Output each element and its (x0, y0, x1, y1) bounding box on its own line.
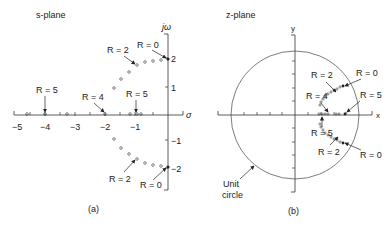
annotation-label: R = 0 (140, 180, 162, 190)
unit-circle-label: Unit (223, 179, 240, 189)
x-tick-label: −1 (130, 122, 140, 132)
annotation-label: R = 2 (107, 45, 129, 55)
root-locus-figure: s-plane σ −5 −4 −3 −2 −1 jω (0, 0, 391, 228)
annotation-label: R = 4 (306, 91, 328, 101)
unit-circle-label: circle (222, 190, 243, 200)
y-label: y (291, 24, 295, 33)
annotation-label: R = 5 (360, 90, 382, 100)
s-plane-title: s-plane (36, 10, 66, 20)
jw-label: jω (161, 22, 171, 32)
annotation-label: R = 5 (36, 85, 58, 95)
lower-locus-points (113, 138, 163, 168)
annotation-label: R = 0 (137, 40, 159, 50)
x-tick-label: −5 (12, 122, 22, 132)
annotation-label: R = 5 (311, 128, 333, 138)
annotation-label: R = 2 (109, 174, 131, 184)
x-tick-label: −2 (100, 122, 110, 132)
z-plane-caption: (b) (288, 206, 299, 216)
y-tick-label: −1 (171, 136, 181, 146)
y-tick-label: −2 (171, 164, 181, 174)
sigma-label: σ (186, 110, 192, 120)
annotation-label: R = 5 (126, 89, 148, 99)
upper-locus-points (113, 59, 163, 90)
annotation-label: R = 0 (360, 150, 382, 160)
x-tick-label: −3 (70, 122, 80, 132)
z-plane-title: z-plane (226, 10, 256, 20)
annotation-label: R = 2 (318, 147, 340, 157)
annotation-label: R = 0 (356, 68, 378, 78)
z-plane-panel: z-plane x y (218, 10, 382, 216)
s-plane-caption: (a) (88, 204, 99, 214)
s-plane-panel: s-plane σ −5 −4 −3 −2 −1 jω (12, 10, 192, 214)
y-tick-label: 1 (171, 83, 176, 93)
annotation-label: R = 4 (82, 92, 104, 102)
x-label: x (376, 111, 380, 120)
annotation-label: R = 2 (311, 70, 333, 80)
y-tick-label: 2 (171, 54, 176, 64)
x-tick-label: −4 (40, 122, 50, 132)
